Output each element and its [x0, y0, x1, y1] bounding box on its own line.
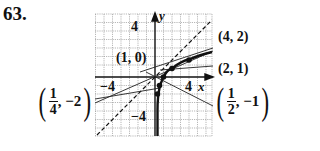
fraction: 1 2: [227, 86, 236, 117]
close-paren: ): [84, 82, 92, 120]
y-value: , −2: [58, 93, 82, 110]
label-point-half-neg1: ( 1 2 , −1 ): [214, 82, 272, 120]
y-value: , −1: [236, 93, 260, 110]
grid: [95, 14, 212, 136]
svg-text:4: 4: [185, 79, 192, 94]
denominator: 2: [228, 102, 235, 117]
open-paren: (: [217, 82, 225, 120]
label-point-2-1: (2, 1): [218, 61, 248, 77]
numerator: 1: [49, 86, 58, 102]
denominator: 4: [50, 102, 57, 117]
svg-text:4: 4: [131, 19, 138, 34]
numerator: 1: [227, 86, 236, 102]
svg-text:x: x: [197, 79, 205, 94]
svg-text:−4: −4: [131, 109, 146, 124]
open-paren: (: [39, 82, 47, 120]
close-paren: ): [262, 82, 270, 120]
label-point-4-2: (4, 2): [218, 29, 248, 45]
label-point-1-0: (1, 0): [116, 50, 146, 66]
svg-text:y: y: [157, 8, 165, 23]
fraction: 1 4: [49, 86, 58, 117]
svg-text:−4: −4: [100, 79, 115, 94]
label-point-quarter-neg2: ( 1 4 , −2 ): [36, 82, 94, 120]
